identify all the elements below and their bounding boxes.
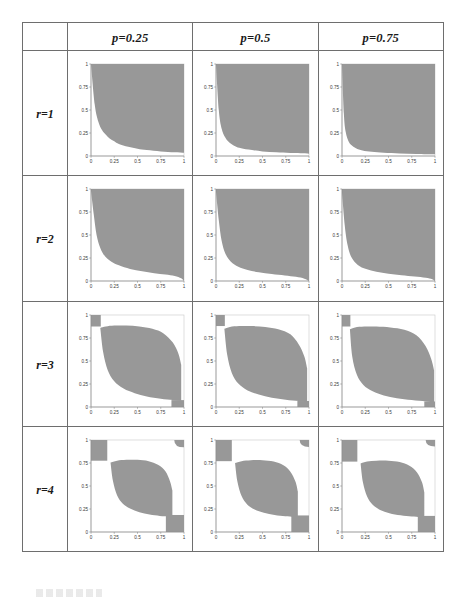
plot-r4-p05: 00.250.50.75100.250.50.751 [196, 434, 314, 544]
svg-text:0.25: 0.25 [235, 410, 244, 415]
svg-text:0.5: 0.5 [332, 108, 339, 113]
column-header-p05: p=0.5 [193, 23, 318, 51]
svg-text:0.75: 0.75 [407, 159, 416, 164]
svg-text:1: 1 [336, 62, 339, 67]
row-header-label: r=3 [36, 358, 54, 372]
svg-text:0.5: 0.5 [385, 410, 392, 415]
svg-text:0: 0 [215, 410, 218, 415]
svg-text:0.25: 0.25 [79, 256, 88, 261]
svg-text:0.5: 0.5 [260, 159, 267, 164]
panel-row-r4: r=4 00.250.50.75100.250.50.751 00.250.50… [23, 426, 444, 551]
svg-text:0.25: 0.25 [361, 410, 370, 415]
svg-text:0: 0 [90, 285, 93, 290]
plot-r2-p075: 00.250.50.75100.250.50.751 [322, 183, 440, 293]
panel-row-r3: r=3 00.250.50.75100.250.50.751 00.250.50… [23, 301, 444, 426]
svg-text:0: 0 [336, 154, 339, 159]
panel-cell-r2-p05: 00.250.50.75100.250.50.751 [193, 176, 318, 301]
svg-text:0.5: 0.5 [82, 484, 89, 489]
svg-text:0.5: 0.5 [134, 410, 141, 415]
svg-text:0: 0 [341, 159, 344, 164]
svg-text:0.75: 0.75 [156, 285, 165, 290]
svg-text:1: 1 [308, 159, 311, 164]
svg-text:0.25: 0.25 [235, 535, 244, 540]
svg-text:0.75: 0.75 [330, 210, 339, 215]
svg-text:0.75: 0.75 [330, 85, 339, 90]
svg-text:0.25: 0.25 [330, 256, 339, 261]
panel-cell-r3-p075: 00.250.50.75100.250.50.751 [318, 301, 443, 426]
svg-text:0.75: 0.75 [156, 410, 165, 415]
panel-cell-r4-p05: 00.250.50.75100.250.50.751 [193, 426, 318, 551]
column-header-label: p=0.25 [112, 31, 148, 45]
svg-text:0.75: 0.75 [79, 461, 88, 466]
svg-text:0: 0 [341, 285, 344, 290]
svg-text:0: 0 [336, 530, 339, 535]
panel-row-r1: r=1 00.250.50.75100.250.50.751 00.250.50… [23, 51, 444, 176]
svg-text:0.5: 0.5 [385, 535, 392, 540]
svg-text:0.75: 0.75 [205, 85, 214, 90]
svg-text:0.75: 0.75 [407, 285, 416, 290]
plot-r1-p05: 00.250.50.75100.250.50.751 [196, 58, 314, 168]
svg-text:0: 0 [86, 154, 89, 159]
panel-cell-r1-p075: 00.250.50.75100.250.50.751 [318, 51, 443, 176]
row-header-r2: r=2 [23, 176, 68, 301]
svg-text:0.25: 0.25 [205, 381, 214, 386]
plot-r4-p025: 00.250.50.75100.250.50.751 [71, 434, 189, 544]
header-row: p=0.25 p=0.5 p=0.75 [23, 23, 444, 51]
svg-text:0.75: 0.75 [205, 210, 214, 215]
svg-text:0.5: 0.5 [260, 535, 267, 540]
svg-text:0: 0 [215, 535, 218, 540]
svg-text:0: 0 [336, 279, 339, 284]
svg-text:0.75: 0.75 [407, 410, 416, 415]
svg-text:0.25: 0.25 [110, 285, 119, 290]
svg-text:0: 0 [211, 154, 214, 159]
svg-text:1: 1 [86, 187, 89, 192]
svg-text:0.5: 0.5 [82, 233, 89, 238]
svg-text:0.75: 0.75 [79, 85, 88, 90]
svg-text:0: 0 [90, 535, 93, 540]
plot-r1-p025: 00.250.50.75100.250.50.751 [71, 58, 189, 168]
svg-text:0.25: 0.25 [79, 507, 88, 512]
svg-text:0.75: 0.75 [205, 461, 214, 466]
svg-text:0: 0 [90, 159, 93, 164]
svg-text:0: 0 [90, 410, 93, 415]
svg-text:0.5: 0.5 [260, 285, 267, 290]
svg-text:0.75: 0.75 [79, 335, 88, 340]
svg-text:1: 1 [86, 312, 89, 317]
svg-text:0: 0 [211, 404, 214, 409]
svg-text:0.5: 0.5 [134, 159, 141, 164]
svg-text:0.25: 0.25 [361, 535, 370, 540]
svg-text:0: 0 [86, 404, 89, 409]
plot-r1-p075: 00.250.50.75100.250.50.751 [322, 58, 440, 168]
svg-text:0.25: 0.25 [361, 285, 370, 290]
svg-text:1: 1 [308, 285, 311, 290]
svg-text:1: 1 [183, 159, 186, 164]
svg-text:0: 0 [215, 285, 218, 290]
svg-text:0.25: 0.25 [110, 159, 119, 164]
column-header-label: p=0.75 [363, 31, 399, 45]
svg-text:0.5: 0.5 [332, 484, 339, 489]
svg-text:0.75: 0.75 [205, 335, 214, 340]
corner-cell [23, 23, 68, 51]
svg-text:0: 0 [341, 410, 344, 415]
svg-text:0.75: 0.75 [156, 159, 165, 164]
svg-text:1: 1 [336, 438, 339, 443]
svg-text:0.25: 0.25 [205, 256, 214, 261]
svg-text:0.75: 0.75 [282, 410, 291, 415]
svg-text:1: 1 [308, 410, 311, 415]
plot-r2-p05: 00.250.50.75100.250.50.751 [196, 183, 314, 293]
svg-text:1: 1 [308, 535, 311, 540]
svg-text:0: 0 [341, 535, 344, 540]
svg-text:0.25: 0.25 [361, 159, 370, 164]
row-header-label: r=2 [36, 232, 54, 246]
row-header-r4: r=4 [23, 426, 68, 551]
svg-text:1: 1 [86, 438, 89, 443]
svg-text:0: 0 [86, 279, 89, 284]
svg-text:0.5: 0.5 [207, 484, 214, 489]
svg-text:0.25: 0.25 [79, 131, 88, 136]
svg-text:0.5: 0.5 [82, 358, 89, 363]
column-header-label: p=0.5 [240, 31, 270, 45]
svg-text:0.25: 0.25 [79, 381, 88, 386]
svg-text:0.5: 0.5 [385, 159, 392, 164]
svg-text:0.75: 0.75 [282, 535, 291, 540]
row-header-label: r=1 [36, 107, 54, 121]
